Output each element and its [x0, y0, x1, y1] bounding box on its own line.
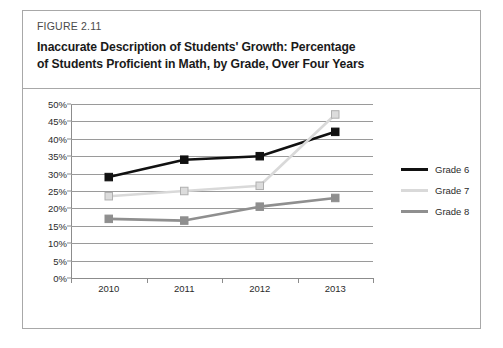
data-point-marker [105, 192, 113, 200]
x-axis-tick-label: 2012 [249, 283, 270, 294]
x-axis-labels: 2010201120122013 [71, 283, 373, 299]
series-grade-7 [105, 111, 339, 200]
legend-item-grade-6: Grade 6 [401, 159, 487, 180]
legend-swatch [401, 168, 428, 171]
y-axis-tick-label: 35% [23, 151, 67, 162]
figure-header: FIGURE 2.11 Inaccurate Description of St… [23, 11, 480, 89]
figure-label: FIGURE 2.11 [37, 20, 466, 32]
y-axis-labels: 0%5%10%15%20%25%30%35%40%45%50% [23, 104, 67, 278]
figure-container: FIGURE 2.11 Inaccurate Description of St… [22, 10, 481, 329]
series-grade-6 [105, 128, 339, 181]
data-point-marker [105, 215, 113, 223]
legend-label: Grade 6 [435, 164, 469, 175]
series-grade-8 [105, 194, 339, 224]
y-axis-tick-label: 45% [23, 116, 67, 127]
data-point-marker [256, 182, 264, 190]
legend-swatch [401, 210, 428, 213]
page-title: Inaccurate Description of Students' Grow… [37, 39, 466, 74]
y-axis-tick-label: 15% [23, 220, 67, 231]
series-line [109, 114, 336, 196]
chart-area: 0%5%10%15%20%25%30%35%40%45%50% 20102011… [23, 89, 480, 328]
figure-title-line-1: Inaccurate Description of Students' Grow… [37, 39, 466, 56]
data-point-marker [105, 173, 113, 181]
data-point-marker [181, 187, 189, 195]
legend-label: Grade 7 [435, 185, 469, 196]
data-point-marker [181, 156, 189, 164]
x-axis-tick-label: 2011 [174, 283, 194, 294]
series-line [109, 132, 336, 177]
chart-legend: Grade 6Grade 7Grade 8 [401, 159, 487, 222]
y-axis-tick-label: 0% [23, 273, 67, 284]
legend-label: Grade 8 [435, 206, 469, 217]
x-axis-tick-label: 2010 [98, 283, 119, 294]
legend-item-grade-8: Grade 8 [401, 201, 487, 222]
x-axis-tick-label: 2013 [325, 283, 346, 294]
series-line [109, 198, 336, 221]
x-axis-tick [373, 278, 374, 283]
data-point-marker [256, 152, 264, 160]
data-point-marker [332, 194, 340, 202]
y-axis-tick-label: 50% [23, 99, 67, 110]
series-layer [71, 104, 374, 279]
y-axis-tick-label: 20% [23, 203, 67, 214]
data-point-marker [332, 128, 340, 136]
data-point-marker [332, 111, 340, 119]
legend-swatch [401, 189, 428, 192]
data-point-marker [181, 217, 189, 225]
y-axis-tick-label: 25% [23, 186, 67, 197]
y-axis-tick-label: 10% [23, 238, 67, 249]
legend-item-grade-7: Grade 7 [401, 180, 487, 201]
y-axis-tick-label: 5% [23, 255, 67, 266]
y-axis-tick-label: 30% [23, 168, 67, 179]
y-axis-tick-label: 40% [23, 133, 67, 144]
figure-title-line-2: of Students Proficient in Math, by Grade… [37, 56, 466, 73]
data-point-marker [256, 203, 264, 211]
